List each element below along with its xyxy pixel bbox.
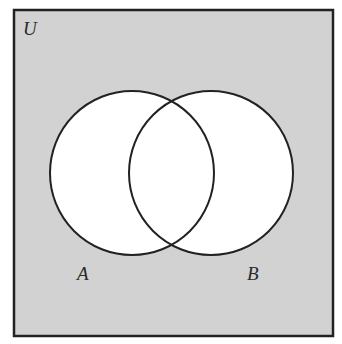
venn-diagram: U A B (0, 0, 342, 344)
set-a-label: A (75, 263, 89, 284)
set-b-label: B (247, 263, 259, 284)
universe-label: U (23, 18, 38, 39)
